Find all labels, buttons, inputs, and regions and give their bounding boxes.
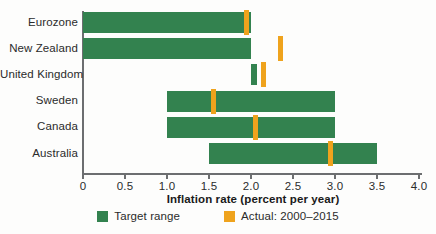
x-tick-label-2: 1.0 (159, 180, 176, 192)
x-tick-0 (82, 174, 83, 179)
legend-label-target-range: Target range (114, 210, 180, 222)
actual-marker (278, 36, 283, 61)
x-tick-label-7: 3.5 (369, 180, 386, 192)
target-range-bar (167, 91, 335, 112)
x-tick-4 (250, 174, 251, 179)
plot-area (83, 12, 419, 172)
actual-marker (211, 89, 216, 114)
x-tick-1 (124, 174, 125, 179)
legend-swatch-actual (224, 211, 235, 222)
category-label-united-kingdom: United Kingdom (0, 68, 78, 82)
category-label-eurozone: Eurozone (0, 16, 78, 30)
legend-item-target-range: Target range (97, 210, 180, 222)
x-tick-2 (166, 174, 167, 179)
actual-marker (261, 62, 266, 87)
x-tick-3 (208, 174, 209, 179)
category-label-australia: Australia (0, 147, 78, 161)
x-tick-6 (334, 174, 335, 179)
category-label-text: New Zealand (0, 42, 78, 54)
category-label-text: Australia (0, 147, 78, 159)
category-label-text: United Kingdom (0, 68, 78, 80)
legend-label-actual: Actual: 2000–2015 (241, 210, 339, 222)
category-label-text: Sweden (0, 94, 78, 106)
target-range-bar (83, 38, 251, 59)
x-tick-label-8: 4.0 (411, 180, 428, 192)
x-tick-label-0: 0 (80, 180, 87, 192)
target-range-bar (251, 64, 257, 85)
x-tick-8 (418, 174, 419, 179)
category-label-sweden: Sweden (0, 94, 78, 108)
x-tick-label-3: 1.5 (201, 180, 218, 192)
x-tick-label-6: 3.0 (327, 180, 344, 192)
x-tick-label-1: 0.5 (117, 180, 134, 192)
target-range-bar (167, 117, 335, 138)
target-range-bar (83, 12, 251, 33)
legend-item-actual: Actual: 2000–2015 (224, 210, 339, 222)
x-tick-label-4: 2.0 (243, 180, 260, 192)
actual-marker (328, 141, 333, 166)
legend-swatch-target-range (97, 211, 108, 222)
x-axis-title: Inflation rate (percent per year) (0, 193, 436, 205)
actual-marker (253, 115, 258, 140)
x-axis-line (82, 173, 422, 175)
category-label-text: Eurozone (0, 16, 78, 28)
actual-marker (244, 10, 249, 35)
category-label-text: Canada (0, 120, 78, 132)
target-range-bar (209, 143, 377, 164)
x-tick-label-5: 2.5 (285, 180, 302, 192)
category-label-new-zealand: New Zealand (0, 42, 78, 56)
chart-legend: Target range Actual: 2000–2015 (0, 210, 436, 222)
category-label-canada: Canada (0, 120, 78, 134)
x-tick-7 (376, 174, 377, 179)
inflation-target-chart: 00.51.01.52.02.53.03.54.0 EurozoneNew Ze… (0, 0, 436, 234)
x-tick-5 (292, 174, 293, 179)
